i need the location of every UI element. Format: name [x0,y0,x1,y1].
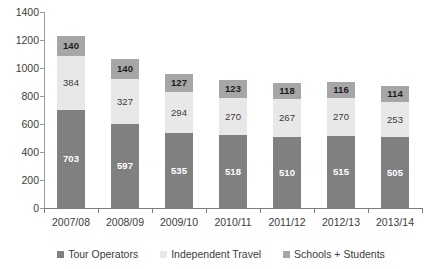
bar-value-label: 123 [225,84,241,94]
bar-group[interactable]: 140384703 [57,36,85,208]
x-tick-mark [98,208,99,213]
legend-label: Schools + Students [294,248,385,260]
legend-swatch-icon [283,251,290,258]
bar-group[interactable]: 118267510 [273,83,301,208]
bar-value-label: 270 [333,112,349,122]
x-tick-mark [422,208,423,213]
bar-value-label: 127 [171,78,187,88]
bar-segment-tour-operators[interactable]: 510 [273,137,301,208]
x-axis-label: 2013/14 [368,216,422,228]
x-tick-mark [206,208,207,213]
chart-legend: Tour OperatorsIndependent TravelSchools … [0,248,442,260]
bar-segment-schools-students[interactable]: 140 [111,59,139,79]
bar-value-label: 114 [387,89,403,99]
bar-segment-tour-operators[interactable]: 597 [111,124,139,208]
bar-value-label: 535 [171,166,187,176]
y-tick-label: 400 [21,146,39,158]
bar-value-label: 384 [63,78,79,88]
x-axis-line [44,208,422,209]
bar-segment-tour-operators[interactable]: 505 [381,137,409,208]
y-tick-label: 1400 [16,6,39,18]
bar-segment-independent-travel[interactable]: 270 [327,98,355,136]
bar-value-label: 597 [117,161,133,171]
bar-segment-tour-operators[interactable]: 703 [57,110,85,208]
bar-group[interactable]: 127294535 [165,74,193,208]
x-axis-label: 2008/09 [98,216,152,228]
bar-group[interactable]: 140327597 [111,59,139,208]
bar-value-label: 505 [387,168,403,178]
x-tick-mark [314,208,315,213]
bar-value-label: 118 [279,86,295,96]
bar-group[interactable]: 123270518 [219,80,247,208]
x-axis-label: 2009/10 [152,216,206,228]
y-tick-label: 1200 [16,34,39,46]
legend-swatch-icon [57,251,64,258]
bar-segment-independent-travel[interactable]: 294 [165,92,193,133]
bar-value-label: 140 [117,64,133,74]
y-tick-label: 600 [21,118,39,130]
y-tick-label: 800 [21,90,39,102]
bar-segment-independent-travel[interactable]: 327 [111,79,139,125]
x-axis-label: 2011/12 [260,216,314,228]
bar-segment-schools-students[interactable]: 118 [273,83,301,100]
x-tick-mark [152,208,153,213]
x-tick-mark [368,208,369,213]
bar-segment-schools-students[interactable]: 123 [219,80,247,97]
stacked-bar-chart: 0200400600800100012001400 14038470314032… [0,0,442,269]
x-axis-label: 2010/11 [206,216,260,228]
bar-segment-schools-students[interactable]: 114 [381,86,409,102]
bar-segment-independent-travel[interactable]: 270 [219,98,247,136]
bar-value-label: 510 [279,168,295,178]
x-axis-label: 2012/13 [314,216,368,228]
bar-value-label: 294 [171,108,187,118]
bar-value-label: 327 [117,97,133,107]
bar-segment-independent-travel[interactable]: 267 [273,99,301,136]
bar-segment-independent-travel[interactable]: 253 [381,102,409,137]
bar-segment-tour-operators[interactable]: 515 [327,136,355,208]
legend-label: Tour Operators [68,248,138,260]
legend-item[interactable]: Tour Operators [57,248,138,260]
y-tick-label: 1000 [16,62,39,74]
bar-group[interactable]: 114253505 [381,86,409,208]
x-axis-labels: 2007/082008/092009/102010/112011/122012/… [44,216,422,232]
y-tick-label: 0 [33,202,39,214]
bar-segment-schools-students[interactable]: 127 [165,74,193,92]
bar-value-label: 515 [333,167,349,177]
legend-item[interactable]: Schools + Students [283,248,385,260]
bar-value-label: 116 [333,85,349,95]
bar-value-label: 140 [63,41,79,51]
bar-segment-tour-operators[interactable]: 535 [165,133,193,208]
legend-item[interactable]: Independent Travel [160,248,261,260]
bar-value-label: 270 [225,112,241,122]
y-tick-label: 200 [21,174,39,186]
x-tick-mark [44,208,45,213]
bars-container: 1403847031403275971272945351232705181182… [44,12,422,208]
x-tick-mark [260,208,261,213]
bar-group[interactable]: 116270515 [327,82,355,208]
bar-value-label: 253 [387,115,403,125]
bar-value-label: 703 [63,154,79,164]
bar-segment-independent-travel[interactable]: 384 [57,56,85,110]
bar-segment-schools-students[interactable]: 140 [57,36,85,56]
legend-label: Independent Travel [171,248,261,260]
bar-segment-schools-students[interactable]: 116 [327,82,355,98]
bar-segment-tour-operators[interactable]: 518 [219,135,247,208]
x-axis-label: 2007/08 [44,216,98,228]
bar-value-label: 518 [225,167,241,177]
legend-swatch-icon [160,251,167,258]
bar-value-label: 267 [279,113,295,123]
